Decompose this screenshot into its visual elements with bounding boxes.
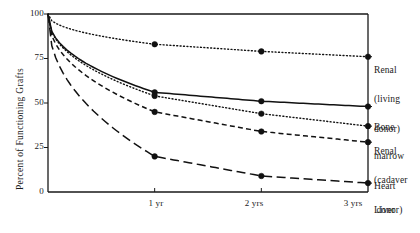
- series-label-line-1: Renal: [374, 66, 400, 76]
- data-point-marker: [259, 129, 265, 135]
- axes-frame: [48, 14, 368, 192]
- series-line: [48, 14, 368, 126]
- data-point-marker: [152, 41, 158, 47]
- series-line: [48, 14, 368, 142]
- series-line: [48, 14, 368, 183]
- x-tick-label-1yr: 1 yr: [130, 199, 182, 208]
- data-point-marker: [152, 109, 158, 115]
- data-point-marker: [152, 154, 158, 160]
- y-tick-label-25: 25: [18, 142, 44, 151]
- y-tick-label-0: 0: [18, 187, 44, 196]
- series-line: [48, 14, 368, 107]
- y-axis-title: Percent of Functioning Grafts: [16, 68, 26, 190]
- data-point-marker: [259, 98, 265, 104]
- graft-survival-figure: Percent of Functioning Grafts 100 75 50 …: [0, 0, 420, 233]
- data-point-marker: [259, 49, 265, 55]
- tick-marks: [44, 14, 261, 192]
- series-label-line-1: Renal: [374, 147, 408, 157]
- series-lines: [48, 14, 368, 183]
- y-tick-label-50: 50: [18, 98, 44, 107]
- series-label-line-1: Liver: [374, 206, 395, 216]
- data-point-marker: [259, 173, 265, 179]
- x-tick-label-2yrs: 2 yrs: [228, 199, 280, 208]
- data-point-marker: [152, 93, 158, 99]
- y-tick-label-100: 100: [18, 9, 44, 18]
- series-label-liver: Liver: [374, 186, 395, 233]
- series-line: [48, 14, 368, 57]
- x-tick-label-3yrs: 3 yrs: [327, 199, 379, 208]
- series-markers: [152, 41, 371, 185]
- data-point-marker: [259, 111, 265, 117]
- y-tick-label-75: 75: [18, 53, 44, 62]
